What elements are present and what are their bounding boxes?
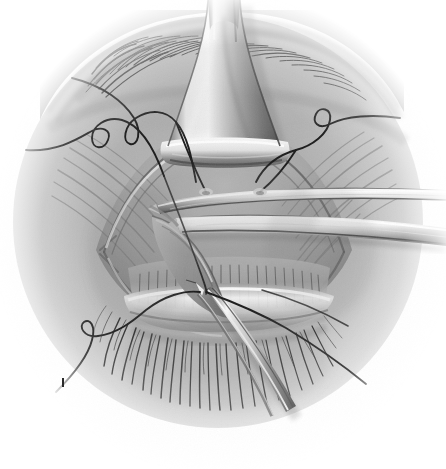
illustration-canvas — [0, 0, 446, 469]
paper-grain — [0, 0, 446, 469]
surgical-illustration: Eyelid ptosis repair — levator aponeuros… — [0, 0, 446, 469]
corner-tick-mark — [62, 378, 64, 387]
artwork-group — [0, 0, 446, 469]
